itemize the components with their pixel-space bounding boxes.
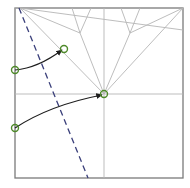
paper-square [15, 8, 183, 178]
origami-diagram [0, 0, 190, 188]
